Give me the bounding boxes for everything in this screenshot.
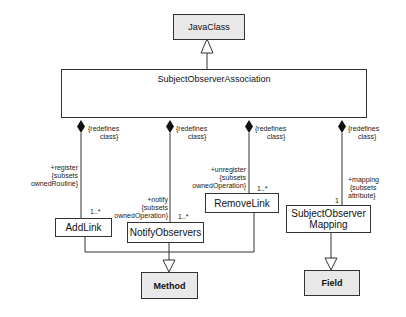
label-line: +register [51,164,78,171]
multiplicity-label: 1..* [257,185,268,193]
class-method[interactable]: Method [141,272,198,299]
label-line: {redefines [176,125,207,132]
label-line: +notify [147,196,168,203]
generalization-arrow-icon [201,39,213,53]
label-line: {subsets [220,174,246,181]
class-addlink[interactable]: AddLink [55,218,112,237]
class-subjectobserverassociation-title: SubjectObserverAssociation [61,74,367,84]
label-line: class} [88,133,118,140]
class-name: Field [321,278,342,288]
label-line: class} [348,133,376,140]
label-line: {subsets [348,184,376,191]
label-line: attribute} [348,192,376,199]
class-name: NotifyObservers [130,227,202,238]
class-name-line1: SubjectObserver [291,208,365,219]
role-label-register: +register{subsetsownedRoutine} [22,164,78,188]
class-javaclass[interactable]: JavaClass [173,14,245,40]
redefines-label: {redefinesclass} [348,125,379,141]
redefines-label: {redefinesclass} [88,125,119,141]
label-line: {redefines [348,125,379,132]
class-name: AddLink [65,222,101,233]
role-label-unregister: +unregister{subsetsownedOperation} [180,166,246,190]
label-line: ownedOperation} [114,212,168,219]
label-line: class} [176,133,206,140]
class-name: JavaClass [188,22,230,32]
class-notifyobservers[interactable]: NotifyObservers [127,222,204,243]
class-removelink[interactable]: RemoveLink [205,193,279,213]
class-name: RemoveLink [214,198,270,209]
class-subjectobservermapping[interactable]: SubjectObserver Mapping [286,205,371,233]
multiplicity-label: 1..* [178,213,189,221]
multiplicity-label: 1 [335,197,339,205]
generalization-arrow-icon [325,258,337,270]
label-line: +mapping [348,176,379,183]
composition-diamond-icon [166,120,174,133]
label-line: {subsets [52,172,78,179]
class-field[interactable]: Field [304,270,360,296]
label-line: +unregister [211,166,246,173]
class-name: Method [154,281,186,291]
label-line: {redefines [255,125,286,132]
multiplicity-label: 1..* [90,208,101,216]
label-line: class} [255,133,285,140]
role-label-mapping: +mapping{subsetsattribute} [348,176,379,200]
label-line: {redefines [88,125,119,132]
composition-diamond-icon [245,120,253,133]
composition-diamond-icon [338,120,346,133]
label-line: {subsets [142,204,168,211]
redefines-label: {redefinesclass} [255,125,286,141]
class-name-line2: Mapping [309,219,347,230]
label-line: ownedRoutine} [31,180,78,187]
composition-diamond-icon [77,120,85,133]
role-label-notify: +notify{subsetsownedOperation} [100,196,168,220]
redefines-label: {redefinesclass} [176,125,207,141]
generalization-arrow-icon [163,260,175,272]
label-line: ownedOperation} [192,182,246,189]
